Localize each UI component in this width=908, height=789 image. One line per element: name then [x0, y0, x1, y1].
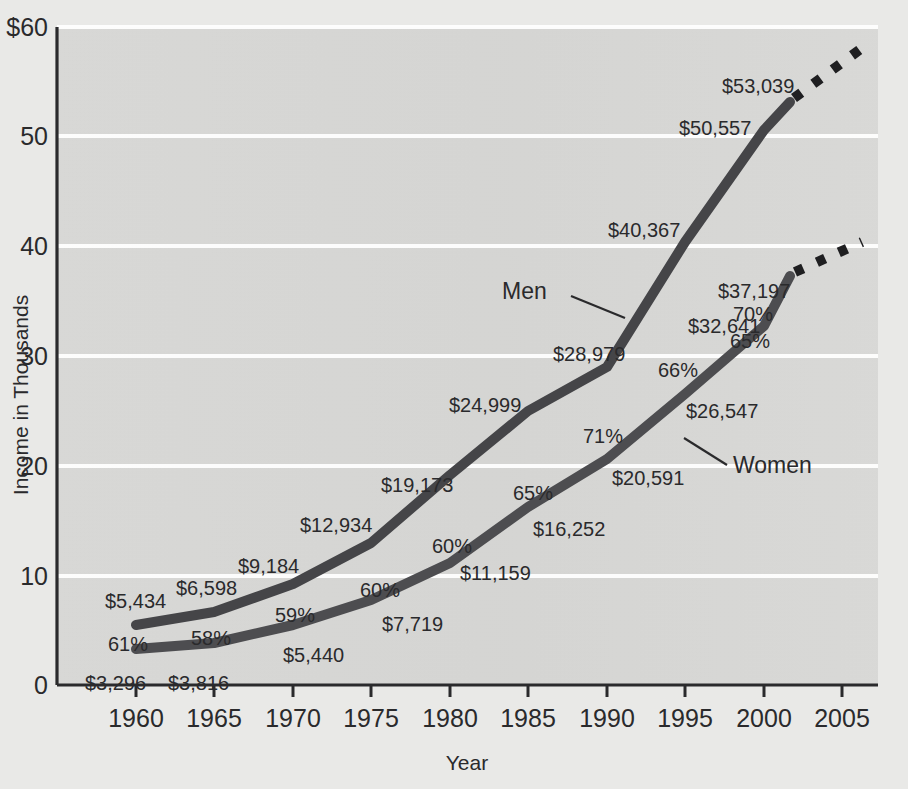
women-label-1960: $3,296: [85, 672, 146, 694]
women-label-1970: $5,440: [283, 644, 344, 666]
men-label-2002: $53,039: [722, 75, 794, 97]
men-label-1975: $12,934: [300, 514, 372, 536]
x-tick-label-2000: 2000: [736, 704, 792, 732]
women-label-1975: $7,719: [382, 613, 443, 635]
y-tick-label-40: 40: [20, 232, 48, 260]
x-tick-label-1995: 1995: [657, 704, 713, 732]
women-label-1995: $26,547: [686, 400, 758, 422]
women-label-1965: $3,816: [168, 672, 229, 694]
men-label-1980: $19,173: [381, 474, 453, 496]
men-label-1985: $24,999: [449, 394, 521, 416]
chart-container: $60 50 40 30 20 10 0 1960 1965 1970 1975…: [0, 0, 908, 789]
men-series-label: Men: [502, 278, 547, 304]
women-ratio-1975: 60%: [360, 579, 400, 601]
x-axis-title: Year: [446, 751, 488, 774]
y-tick-label-60: $60: [6, 13, 48, 41]
women-ratio-1995: 66%: [658, 359, 698, 381]
women-label-1990: $20,591: [612, 467, 684, 489]
x-tick-label-2005: 2005: [814, 704, 870, 732]
women-label-1980: $11,159: [460, 562, 531, 584]
x-tick-label-1965: 1965: [186, 704, 242, 732]
y-tick-label-10: 10: [20, 562, 48, 590]
women-ratio-1965: 58%: [191, 627, 231, 649]
women-series-label: Women: [733, 452, 812, 478]
x-tick-label-1960: 1960: [108, 704, 164, 732]
men-label-1995: $40,367: [608, 219, 680, 241]
men-label-1965: $6,598: [176, 577, 237, 599]
y-tick-label-0: 0: [34, 671, 48, 699]
x-tick-label-1970: 1970: [265, 704, 321, 732]
men-label-1960: $5,434: [105, 590, 166, 612]
income-by-gender-line-chart: $60 50 40 30 20 10 0 1960 1965 1970 1975…: [0, 0, 908, 789]
women-label-2002: $37,197: [718, 280, 790, 302]
y-axis-title: Income in Thousands: [9, 295, 32, 495]
y-tick-label-50: 50: [20, 122, 48, 150]
women-label-1985: $16,252: [533, 518, 605, 540]
women-ratio-1960: 61%: [108, 633, 148, 655]
women-ratio-1980: 60%: [432, 535, 472, 557]
x-tick-label-1975: 1975: [343, 704, 399, 732]
women-ratio-1970: 59%: [275, 604, 315, 626]
x-tick-label-1990: 1990: [579, 704, 635, 732]
men-label-1990: $28,979: [553, 343, 625, 365]
x-tick-label-1980: 1980: [422, 704, 478, 732]
men-label-2000: $50,557: [679, 117, 751, 139]
women-ratio-1990: 71%: [583, 425, 623, 447]
men-label-1970: $9,184: [238, 555, 299, 577]
x-tick-label-1985: 1985: [500, 704, 556, 732]
women-ratio-2000: 65%: [730, 330, 770, 352]
women-ratio-2002: 70%: [733, 303, 773, 325]
women-ratio-1985: 65%: [513, 482, 553, 504]
